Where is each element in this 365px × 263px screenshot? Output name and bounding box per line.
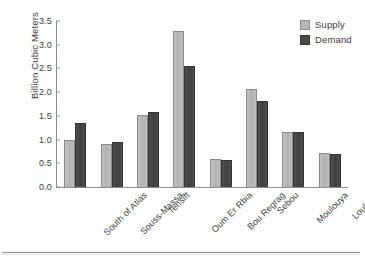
x-axis-line	[56, 187, 348, 188]
x-axis-labels: South of AtlasSouss-MassaTensiftOum Er R…	[56, 190, 348, 250]
bar-supply	[246, 89, 257, 187]
bar-group	[210, 159, 232, 187]
bar-supply	[282, 132, 293, 187]
bar-supply	[173, 31, 184, 188]
legend-label-supply: Supply	[315, 19, 345, 30]
bar-demand	[257, 101, 268, 187]
bar-supply	[64, 140, 75, 187]
bar-demand	[221, 160, 232, 187]
bar-demand	[184, 66, 195, 187]
x-tick-label: Moulouya	[315, 190, 350, 225]
y-tick-label: 0.5	[28, 158, 52, 168]
chart-figure: Billion Cubic Meters 0.00.51.01.52.02.53…	[0, 0, 365, 263]
bar-supply	[137, 115, 148, 187]
legend-swatch-supply	[300, 20, 310, 30]
bar-demand	[293, 132, 304, 187]
bar-supply	[210, 159, 221, 187]
bar-group	[101, 142, 123, 187]
bar-supply	[319, 153, 330, 187]
bar-group	[137, 112, 159, 187]
chart-legend: Supply Demand	[300, 19, 352, 49]
bar-demand	[148, 112, 159, 187]
bar-group	[319, 153, 341, 187]
bar-group	[173, 31, 195, 188]
bar-demand	[330, 154, 341, 187]
page-rule-artifact	[2, 252, 360, 253]
legend-item-demand: Demand	[300, 34, 352, 45]
y-tick-label: 0.0	[28, 182, 52, 192]
y-tick-label: 2.0	[28, 87, 52, 97]
y-tick-label: 3.5	[28, 16, 52, 26]
page-rule-artifact-shadow	[2, 254, 360, 255]
y-tick-label: 3.0	[28, 40, 52, 50]
bar-group	[246, 89, 268, 187]
bar-supply	[101, 144, 112, 187]
bar-demand	[75, 123, 86, 187]
legend-label-demand: Demand	[315, 34, 352, 45]
x-tick-label: Loukkos	[350, 190, 365, 221]
y-tick-label: 2.5	[28, 63, 52, 73]
y-tick-label: 1.5	[28, 111, 52, 121]
legend-item-supply: Supply	[300, 19, 352, 30]
y-tick-label: 1.0	[28, 135, 52, 145]
legend-swatch-demand	[300, 35, 310, 45]
bar-group	[282, 132, 304, 187]
bar-group	[64, 123, 86, 187]
bar-demand	[112, 142, 123, 187]
